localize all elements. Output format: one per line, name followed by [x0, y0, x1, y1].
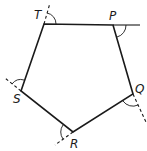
exterior-angle-arc-R	[61, 125, 63, 139]
vertex-label-R: R	[70, 137, 78, 151]
exterior-angle-arc-S	[12, 80, 24, 84]
exterior-angle-arc-Q	[123, 101, 138, 106]
vertex-label-P: P	[109, 9, 117, 23]
vertex-label-T: T	[34, 8, 43, 22]
extension-PQ-beyond-Q	[133, 94, 146, 122]
vertex-label-S: S	[13, 92, 21, 106]
vertex-label-Q: Q	[135, 82, 144, 96]
pentagon-TPQRS	[21, 24, 133, 132]
exterior-angle-arc-T	[47, 13, 56, 24]
exterior-angle-arc-P	[117, 25, 126, 37]
pentagon-diagram: T P Q R S	[0, 0, 147, 151]
